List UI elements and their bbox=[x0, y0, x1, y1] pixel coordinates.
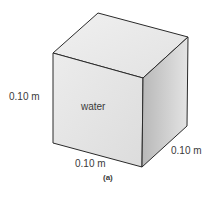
height-label: 0.10 m bbox=[9, 91, 40, 102]
width-label: 0.10 m bbox=[75, 158, 106, 169]
depth-label: 0.10 m bbox=[171, 145, 202, 156]
figure-caption: (a) bbox=[103, 173, 113, 182]
content-label: water bbox=[81, 101, 105, 112]
